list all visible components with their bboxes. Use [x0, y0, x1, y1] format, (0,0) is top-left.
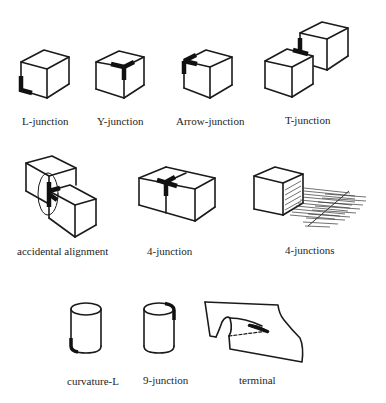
label-9-junction: 9-junction	[143, 374, 188, 386]
arrow-junction-cube-drawing	[184, 50, 232, 98]
label-arrow-junction: Arrow-junction	[176, 115, 244, 127]
l-junction-cube-drawing	[21, 50, 69, 98]
9-junction-cylinder-drawing	[144, 303, 174, 353]
junction-drawings	[0, 0, 386, 403]
label-y-junction: Y-junction	[97, 115, 143, 127]
t-junction-front-cube-drawing	[265, 38, 313, 97]
label-l-junction: L-junction	[22, 115, 68, 127]
label-4-junctions: 4-junctions	[285, 244, 335, 256]
junction-types-figure: L-junction Y-junction Arrow-junction T-j…	[0, 0, 386, 403]
4-junction-block-drawing	[139, 167, 215, 221]
4-junctions-cube-drawing	[254, 167, 303, 215]
accidental-alignment-front-cube-drawing	[38, 173, 96, 237]
label-terminal: terminal	[239, 374, 276, 386]
t-junction-back-cube-drawing	[300, 22, 348, 70]
terminal-surface-drawing	[205, 302, 303, 362]
label-t-junction: T-junction	[285, 114, 330, 126]
curvature-l-cylinder-drawing	[71, 303, 101, 353]
label-4-junction: 4-junction	[147, 245, 192, 257]
shadow-hatching	[285, 181, 366, 227]
label-accidental-alignment: accidental alignment	[17, 245, 108, 257]
label-curvature-l: curvature-L	[67, 375, 119, 387]
y-junction-cube-drawing	[96, 51, 144, 98]
